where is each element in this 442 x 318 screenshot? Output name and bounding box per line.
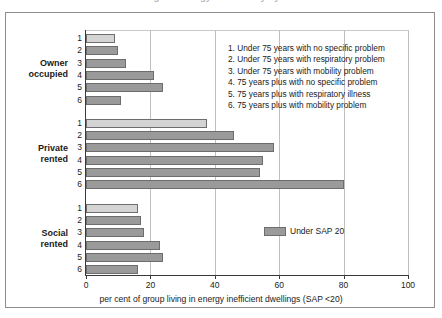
category-key-line: 6. 75 years plus with mobility problem: [228, 100, 413, 111]
category-number: 6: [68, 180, 82, 189]
bar: [86, 228, 144, 237]
page-title: Figure: energy inefficiency by tenure: [145, 0, 311, 2]
series-legend-label: Under SAP 20: [290, 226, 344, 236]
category-number: 4: [68, 156, 82, 165]
category-key-line: 3. Under 75 years with mobility problem: [228, 66, 413, 77]
figure-frame: OwneroccupiedPrivaterentedSocialrented 1…: [5, 12, 435, 308]
x-axis-tick: [408, 275, 409, 279]
bar: [86, 34, 115, 43]
bar: [86, 131, 234, 140]
group-label: Privaterented: [6, 143, 68, 165]
bar: [86, 168, 260, 177]
category-number: 5: [68, 83, 82, 92]
bar: [86, 46, 118, 55]
group-label-line: rented: [6, 239, 68, 250]
x-axis-tick-label: 60: [264, 280, 294, 290]
x-axis-tick: [344, 275, 345, 279]
group-label-line: Social: [6, 228, 68, 239]
plot-top-border: [86, 30, 408, 31]
cut-off-title-strip: Figure: energy inefficiency by tenure: [0, 0, 442, 11]
bar: [86, 119, 207, 128]
bar: [86, 59, 126, 68]
bar: [86, 96, 121, 105]
category-number: 2: [68, 216, 82, 225]
x-axis-tick: [86, 275, 87, 279]
bar: [86, 180, 344, 189]
x-axis-tick-label: 80: [329, 280, 359, 290]
group-label-line: rented: [6, 154, 68, 165]
group-label: Owneroccupied: [6, 58, 68, 80]
category-number: 2: [68, 46, 82, 55]
x-axis-tick: [150, 275, 151, 279]
bar: [86, 265, 138, 274]
category-key-legend: 1. Under 75 years with no specific probl…: [228, 43, 413, 111]
x-axis-tick-label: 0: [71, 280, 101, 290]
category-number: 3: [68, 59, 82, 68]
bar: [86, 83, 163, 92]
x-axis-tick: [279, 275, 280, 279]
category-number: 4: [68, 241, 82, 250]
category-number: 3: [68, 228, 82, 237]
category-key-line: 1. Under 75 years with no specific probl…: [228, 43, 413, 54]
bar: [86, 156, 263, 165]
category-number-column: 123456123456123456: [64, 30, 82, 275]
group-label-line: occupied: [6, 69, 68, 80]
group-label-line: Owner: [6, 58, 68, 69]
category-number: 6: [68, 96, 82, 105]
bar: [86, 71, 154, 80]
category-number: 4: [68, 71, 82, 80]
gridline: [150, 30, 151, 275]
category-number: 6: [68, 265, 82, 274]
category-number: 1: [68, 204, 82, 213]
group-label-column: OwneroccupiedPrivaterentedSocialrented: [0, 30, 68, 275]
bar: [86, 143, 274, 152]
bar: [86, 204, 138, 213]
bar: [86, 241, 160, 250]
category-number: 3: [68, 143, 82, 152]
category-key-line: 2. Under 75 years with respiratory probl…: [228, 54, 413, 65]
x-axis-title: per cent of group living in energy ineff…: [6, 294, 436, 304]
x-axis-tick-label: 20: [135, 280, 165, 290]
x-axis-tick: [215, 275, 216, 279]
category-number: 5: [68, 168, 82, 177]
category-key-line: 4. 75 years plus with no specific proble…: [228, 77, 413, 88]
group-label-line: Private: [6, 143, 68, 154]
category-key-line: 5. 75 years plus with respiratory illnes…: [228, 89, 413, 100]
category-number: 1: [68, 34, 82, 43]
x-axis-tick-label: 40: [200, 280, 230, 290]
category-number: 1: [68, 119, 82, 128]
group-label: Socialrented: [6, 228, 68, 250]
category-number: 2: [68, 131, 82, 140]
category-number: 5: [68, 253, 82, 262]
bar: [86, 216, 141, 225]
series-legend: Under SAP 20: [264, 226, 344, 236]
x-axis-tick-label: 100: [393, 280, 423, 290]
bar: [86, 253, 163, 262]
gridline: [215, 30, 216, 275]
x-axis-line: [85, 275, 408, 276]
series-legend-swatch: [264, 227, 286, 236]
